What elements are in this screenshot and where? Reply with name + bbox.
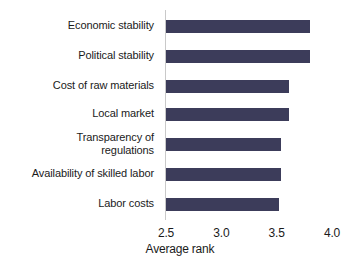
x-axis-title-text: Average rank [146,242,215,256]
bar [166,80,289,93]
category-label: Transparency of regulations [4,131,154,156]
category-label: Political stability [4,49,154,62]
bar [166,168,281,181]
x-tick-label: 3.0 [201,226,241,240]
bar [166,50,310,63]
x-tick-label: 4.0 [312,226,345,240]
bar [166,20,310,33]
category-label: Local market [4,107,154,120]
category-label: Labor costs [4,197,154,210]
bar [166,138,281,151]
category-label: Availability of skilled labor [4,167,154,180]
category-label: Cost of raw materials [4,79,154,92]
x-tick-label: 3.5 [257,226,297,240]
bar [166,108,289,121]
x-tick-label: 2.5 [146,226,186,240]
x-axis-title: Average rank [0,242,340,256]
bar [166,198,279,211]
category-label: Economic stability [4,19,154,32]
